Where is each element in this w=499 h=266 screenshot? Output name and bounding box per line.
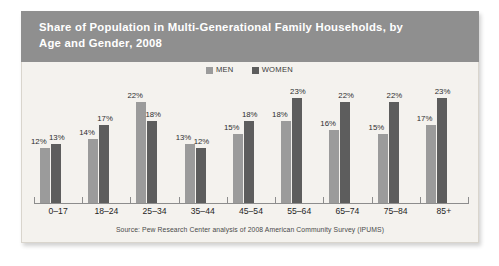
chart-title-band: Share of Population in Multi-Generationa… [21,11,479,62]
bar-women [389,102,399,203]
bar-men [88,139,98,203]
x-axis-line [34,203,468,204]
bar-value-label-men: 22% [127,91,143,100]
bar-value-label-men: 14% [79,128,95,137]
x-axis-label: 0–17 [34,206,82,217]
x-axis-tick [323,197,324,204]
x-axis-tick [372,197,373,204]
x-axis-label: 55–64 [275,206,323,217]
bar-group: 15%22% [372,84,420,203]
bar-value-label-women: 23% [290,87,306,96]
x-axis-label: 65–74 [323,206,371,217]
chart-legend: MEN WOMEN [0,66,499,74]
x-axis-tick [179,197,180,204]
legend-swatch-men-icon [206,67,213,74]
x-axis-tick [34,197,35,204]
bar-women [340,102,350,203]
x-axis-label: 45–54 [227,206,275,217]
bar-value-label-men: 13% [176,133,192,142]
bar-group: 16%22% [323,84,371,203]
bar-group: 14%17% [82,84,130,203]
bar-value-label-women: 22% [387,91,403,100]
bar-group: 13%12% [179,84,227,203]
page-title-line2: Age and Gender, 2008 [39,36,461,52]
bar-women [244,121,254,203]
x-axis-tick [420,197,421,204]
bar-value-label-men: 15% [369,123,385,132]
x-axis-tick [130,197,131,204]
x-axis-label: 35–44 [179,206,227,217]
legend-label-men: MEN [216,66,234,74]
bar-group: 22%18% [130,84,178,203]
bar-women [196,148,206,203]
bar-group: 17%23% [420,84,468,203]
x-axis-tick [275,197,276,204]
bar-value-label-women: 12% [194,137,210,146]
bar-men [281,121,291,203]
x-axis-label: 85+ [420,206,468,217]
x-axis-category-labels: 0–1718–2425–3435–4445–5455–6465–7475–848… [34,206,468,220]
legend-swatch-women-icon [252,67,259,74]
plot-area: 12%13%14%17%22%18%13%12%15%18%18%23%16%2… [34,84,468,203]
bar-women [99,125,109,203]
legend-label-women: WOMEN [262,66,293,74]
bar-men [426,125,436,203]
bar-men [233,134,243,203]
bar-men [378,134,388,203]
bar-group: 18%23% [275,84,323,203]
bar-value-label-men: 17% [417,114,433,123]
bar-value-label-women: 18% [145,110,161,119]
source-note: Source: Pew Research Center analysis of … [21,225,479,234]
bar-men [40,148,50,203]
bar-value-label-men: 12% [31,137,47,146]
figure-root: Share of Population in Multi-Generationa… [0,0,499,266]
bar-group: 15%18% [227,84,275,203]
bar-women [292,98,302,203]
bar-men [185,144,195,204]
bar-value-label-women: 22% [338,91,354,100]
bar-value-label-men: 15% [224,123,240,132]
bar-value-label-women: 13% [49,133,65,142]
x-axis-tick [227,197,228,204]
bar-women [437,98,447,203]
bar-value-label-men: 16% [320,119,336,128]
x-axis-label: 18–24 [82,206,130,217]
bar-value-label-men: 18% [272,110,288,119]
x-axis-tick [82,197,83,204]
bar-group: 12%13% [34,84,82,203]
bar-value-label-women: 17% [97,114,113,123]
legend-item-men: MEN [206,66,234,74]
x-axis-label: 75–84 [372,206,420,217]
x-axis-label: 25–34 [130,206,178,217]
bar-women [147,121,157,203]
bar-women [51,144,61,204]
bar-value-label-women: 18% [242,110,258,119]
page-title-line1: Share of Population in Multi-Generationa… [39,20,461,36]
bar-value-label-women: 23% [435,87,451,96]
bar-men [329,130,339,203]
x-axis-tick [468,197,469,204]
legend-item-women: WOMEN [252,66,293,74]
